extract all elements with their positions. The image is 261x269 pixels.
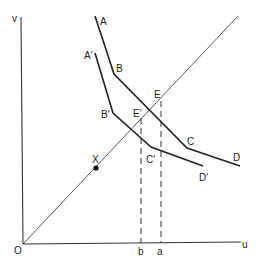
point-a-prime-label: A' <box>84 50 93 61</box>
point-d-prime-label: D' <box>199 172 208 183</box>
diagram-canvas: v u O X A B C D A' B' C' D' E E' a b <box>0 0 261 269</box>
v-axis <box>21 17 23 244</box>
point-c-prime-label: C' <box>146 154 155 165</box>
point-e-prime-label: E' <box>133 108 142 119</box>
point-b-label: B <box>116 63 123 74</box>
b-tick-label: b <box>138 246 144 257</box>
origin-label: O <box>14 245 22 256</box>
diagonal-line <box>23 16 238 244</box>
point-a-label: A <box>100 16 107 27</box>
point-c-label: C <box>187 136 194 147</box>
point-x-dot <box>93 165 98 170</box>
u-axis <box>23 242 241 244</box>
a-tick-label: a <box>157 246 163 257</box>
v-axis-label: v <box>12 13 17 24</box>
u-axis-label: u <box>242 239 248 250</box>
point-b-prime-label: B' <box>101 109 110 120</box>
point-d-label: D <box>233 152 240 163</box>
point-e-label: E <box>154 89 161 100</box>
point-x-label: X <box>92 154 99 165</box>
